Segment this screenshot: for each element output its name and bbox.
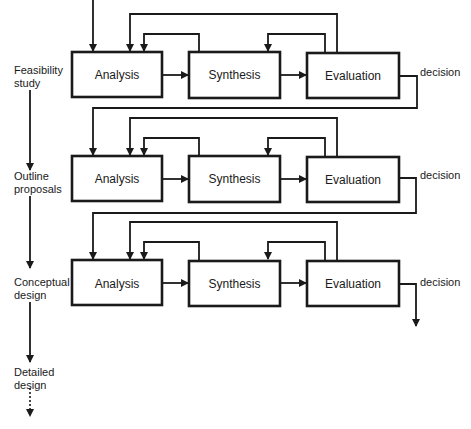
eval-feedback-1 bbox=[268, 34, 325, 52]
outer-feedback-2 bbox=[130, 118, 337, 156]
stage-label-line: proposals bbox=[14, 183, 62, 196]
stage-label-feasibility: Feasibility study bbox=[14, 64, 63, 90]
stage-label-line: Feasibility bbox=[14, 64, 63, 77]
stage-label-line: Outline bbox=[14, 170, 62, 183]
stage-label-detailed: Detailed design bbox=[14, 366, 54, 392]
evaluation-label-3: Evaluation bbox=[307, 277, 399, 291]
decision-label-1: decision bbox=[420, 66, 460, 79]
analysis-label-2: Analysis bbox=[72, 172, 162, 186]
outer-feedback-1 bbox=[130, 14, 337, 52]
eval-feedback-2 bbox=[268, 138, 325, 157]
analysis-label-3: Analysis bbox=[72, 277, 162, 291]
analysis-label-1: Analysis bbox=[72, 68, 162, 82]
decision-label-3: decision bbox=[420, 276, 460, 289]
stage-label-line: design bbox=[14, 289, 70, 302]
eval-feedback-3 bbox=[268, 242, 325, 261]
decision-label-2: decision bbox=[420, 169, 460, 182]
synth-feedback-3 bbox=[144, 242, 199, 261]
synth-feedback-1 bbox=[144, 34, 199, 52]
evaluation-label-2: Evaluation bbox=[307, 173, 399, 187]
synthesis-label-2: Synthesis bbox=[189, 172, 280, 186]
stage-label-line: Conceptual bbox=[14, 276, 70, 289]
synth-feedback-2 bbox=[144, 138, 199, 156]
diagram-canvas bbox=[0, 0, 471, 429]
synthesis-label-3: Synthesis bbox=[189, 277, 280, 291]
stage-label-line: Detailed bbox=[14, 366, 54, 379]
stage-label-outline: Outline proposals bbox=[14, 170, 62, 196]
decision-output-3 bbox=[400, 284, 416, 326]
synthesis-label-1: Synthesis bbox=[189, 68, 280, 82]
stage-label-line: design bbox=[14, 379, 54, 392]
stage-label-line: study bbox=[14, 77, 63, 90]
stage-label-conceptual: Conceptual design bbox=[14, 276, 70, 302]
evaluation-label-1: Evaluation bbox=[307, 69, 399, 83]
